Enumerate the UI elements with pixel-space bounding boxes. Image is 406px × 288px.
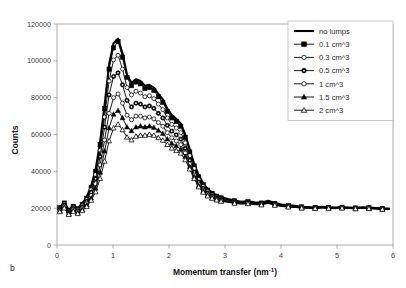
marker-open-circle	[134, 89, 138, 93]
marker-open-circle	[179, 131, 183, 135]
y-tick-label: 40000	[31, 167, 51, 176]
marker-filled-square	[143, 86, 147, 90]
legend-label: 1.5 cm^3	[319, 93, 350, 102]
marker-half-circle-inner	[99, 156, 101, 158]
marker-open-circle	[156, 102, 160, 106]
marker-open-circle	[147, 94, 151, 98]
marker-filled-square	[152, 88, 156, 92]
marker-open-circle	[302, 55, 306, 59]
marker-open-circle	[174, 126, 178, 130]
marker-half-circle-inner	[162, 117, 164, 119]
scattering-counts-chart: 020000400006000080000100000120000 012345…	[0, 0, 406, 288]
marker-half-circle-inner	[108, 94, 110, 96]
marker-open-circle	[107, 79, 111, 83]
marker-filled-square	[147, 85, 151, 89]
x-tick-label: 4	[279, 251, 283, 260]
x-tick-label: 3	[223, 251, 227, 260]
marker-half-circle-inner	[157, 112, 159, 114]
chart-legend: no lumps0.1 cm^30.3 cm^30.5 cm^31 cm^31.…	[288, 21, 393, 120]
legend-label: 0.3 cm^3	[319, 53, 350, 62]
marker-open-circle	[103, 138, 107, 142]
marker-open-circle	[107, 111, 111, 115]
marker-open-circle	[302, 82, 306, 86]
marker-open-circle	[129, 118, 133, 122]
marker-half-circle-inner	[135, 102, 137, 104]
marker-open-circle	[125, 113, 129, 117]
y-axis-title: Counts	[10, 125, 20, 154]
marker-half-circle-inner	[166, 124, 168, 126]
marker-open-circle	[161, 108, 165, 112]
marker-half-circle-inner	[131, 106, 133, 108]
figure-panel-b: 020000400006000080000100000120000 012345…	[0, 0, 406, 288]
marker-open-circle	[138, 114, 142, 118]
marker-filled-square	[116, 39, 120, 43]
x-tick-label: 6	[391, 251, 395, 260]
marker-half-circle-inner	[149, 105, 151, 107]
marker-open-circle	[121, 67, 125, 71]
marker-open-circle	[161, 124, 165, 128]
marker-half-circle-inner	[104, 126, 106, 128]
marker-filled-square	[120, 55, 124, 59]
x-tick-label: 1	[111, 251, 115, 260]
y-tick-label: 60000	[31, 130, 51, 139]
marker-filled-square	[165, 109, 169, 113]
marker-open-circle	[134, 114, 138, 118]
legend-label: no lumps	[319, 27, 350, 36]
x-tick-label: 0	[55, 251, 59, 260]
marker-filled-square	[125, 75, 129, 79]
marker-half-circle-inner	[175, 134, 177, 136]
marker-open-circle	[143, 116, 147, 120]
marker-open-circle	[170, 136, 174, 140]
marker-half-circle-inner	[303, 70, 305, 72]
marker-filled-square	[174, 120, 178, 124]
marker-half-circle-inner	[153, 107, 155, 109]
y-tick-label: 0	[47, 241, 51, 250]
marker-half-circle-inner	[180, 138, 182, 140]
x-axis-title-base: Momentum transfer (nm	[173, 267, 269, 277]
marker-filled-square	[179, 124, 183, 128]
marker-open-circle	[147, 115, 151, 119]
x-axis-title-tail: )	[274, 267, 277, 277]
marker-open-circle	[116, 53, 120, 57]
marker-half-circle-inner	[140, 103, 142, 105]
marker-open-circle	[152, 97, 156, 101]
x-tick-label: 5	[335, 251, 339, 260]
marker-open-circle	[152, 117, 156, 121]
marker-open-circle	[183, 141, 187, 145]
legend-label: 2 cm^3	[319, 106, 343, 115]
legend-label: 1 cm^3	[319, 80, 343, 89]
marker-half-circle-inner	[171, 130, 173, 132]
marker-half-circle-inner	[117, 72, 119, 74]
marker-open-circle	[129, 93, 133, 97]
y-tick-label: 20000	[31, 204, 51, 213]
marker-half-circle-inner	[144, 106, 146, 108]
panel-label: b	[10, 263, 15, 273]
marker-filled-square	[107, 67, 111, 71]
marker-open-circle	[156, 121, 160, 125]
marker-filled-square	[111, 46, 115, 50]
legend-label: 0.1 cm^3	[319, 40, 350, 49]
marker-open-circle	[165, 116, 169, 120]
marker-open-circle	[179, 143, 183, 147]
marker-open-circle	[165, 131, 169, 135]
marker-half-circle-inner	[113, 76, 115, 78]
marker-open-circle	[112, 96, 116, 100]
marker-filled-square	[134, 80, 138, 84]
y-tick-label: 100000	[27, 56, 51, 65]
marker-filled-square	[170, 116, 174, 120]
marker-open-circle	[116, 92, 120, 96]
marker-filled-square	[138, 82, 142, 86]
marker-half-circle-inner	[122, 84, 124, 86]
legend-label: 0.5 cm^3	[319, 66, 350, 75]
marker-filled-square	[156, 95, 160, 99]
x-tick-label: 2	[167, 251, 171, 260]
marker-filled-square	[129, 84, 133, 88]
marker-filled-square	[302, 42, 307, 47]
marker-filled-square	[161, 100, 165, 104]
marker-open-circle	[174, 139, 178, 143]
marker-open-circle	[125, 86, 129, 90]
marker-open-circle	[143, 95, 147, 99]
y-tick-label: 80000	[31, 93, 51, 102]
x-axis-title: Momentum transfer (nm-1)	[173, 266, 277, 277]
marker-open-circle	[121, 101, 125, 105]
